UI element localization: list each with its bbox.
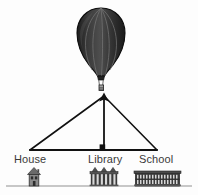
triangle-side-school [104,96,157,150]
sight-line-triangle [30,93,157,151]
library-icon [90,167,119,186]
diagram-canvas [0,0,198,195]
right-angle-marker [100,144,106,150]
triangle-side-house [30,96,104,150]
school-icon [134,171,181,186]
balloon-triangle-diagram: House Library School [0,0,198,195]
house-icon [28,168,41,187]
hot-air-balloon [77,8,125,90]
balloon-envelope [77,8,125,76]
